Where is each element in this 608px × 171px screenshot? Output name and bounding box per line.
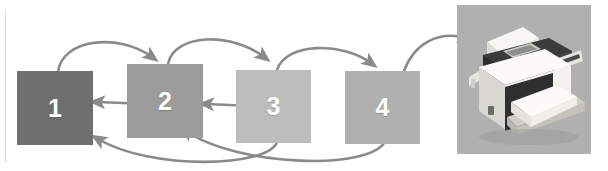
printer-front-led bbox=[488, 106, 494, 115]
diagram-canvas: 1 2 3 4 bbox=[0, 0, 608, 171]
arc-2-to-3 bbox=[168, 39, 264, 64]
stage-label-2: 2 bbox=[158, 89, 172, 114]
stage-box-1[interactable]: 1 bbox=[17, 71, 93, 145]
printer-shadow bbox=[479, 129, 579, 145]
stage-box-4[interactable]: 4 bbox=[345, 71, 420, 144]
printer-photo[interactable] bbox=[457, 5, 591, 154]
stage-box-2[interactable]: 2 bbox=[127, 64, 203, 138]
arc-3-to-4 bbox=[277, 48, 371, 70]
stage-label-4: 4 bbox=[376, 95, 390, 120]
stage-box-3[interactable]: 3 bbox=[236, 70, 311, 143]
printer-icon bbox=[457, 5, 591, 154]
stage-label-1: 1 bbox=[48, 96, 62, 121]
stage-label-3: 3 bbox=[267, 94, 281, 119]
